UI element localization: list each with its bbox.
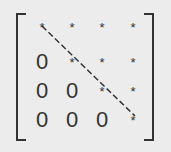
matrix-zero: 0 bbox=[87, 105, 117, 135]
matrix-zero: 0 bbox=[27, 47, 57, 77]
matrix-star: * bbox=[118, 76, 148, 106]
matrix-zero: 0 bbox=[27, 105, 57, 135]
matrix-star: * bbox=[118, 105, 148, 135]
matrix-star: * bbox=[27, 12, 57, 42]
matrix-star: * bbox=[118, 12, 148, 42]
matrix-star: * bbox=[57, 12, 87, 42]
matrix-star: * bbox=[87, 76, 117, 106]
matrix-zero: 0 bbox=[27, 76, 57, 106]
matrix-zero: 0 bbox=[57, 76, 87, 106]
matrix-star: * bbox=[87, 47, 117, 77]
matrix-zero: 0 bbox=[57, 105, 87, 135]
matrix-star: * bbox=[118, 47, 148, 77]
matrix-star: * bbox=[87, 12, 117, 42]
matrix-star: * bbox=[57, 47, 87, 77]
